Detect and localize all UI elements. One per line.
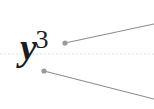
leader-line-upper[interactable] — [65, 24, 154, 43]
leader-dot-lower[interactable] — [41, 68, 46, 73]
expression-base: y — [20, 26, 36, 68]
math-expression: y3 — [20, 28, 49, 66]
expression-exponent: 3 — [35, 25, 48, 54]
leader-line-lower[interactable] — [44, 71, 154, 99]
figure-canvas: y3 — [0, 0, 154, 109]
leader-dot-upper[interactable] — [62, 40, 67, 45]
